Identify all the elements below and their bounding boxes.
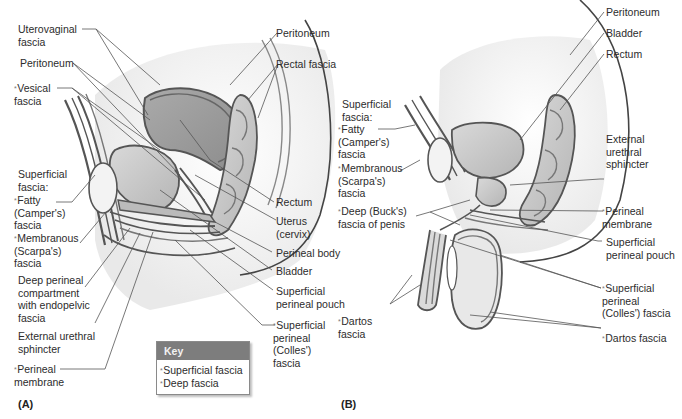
key-title: Key	[157, 342, 249, 360]
label-peritoneum-a-right: Peritoneum	[276, 27, 330, 40]
label-rectum-a: Rectum	[276, 196, 312, 209]
label-uterus-cervix: Uterus (cervix)	[276, 215, 310, 240]
male-pelvis-drawing	[405, 0, 629, 329]
label-peritoneum-a-left: Peritoneum	[20, 57, 74, 70]
label-dartos-fascia-b-right: *Dartos fascia	[602, 332, 667, 345]
label-perineal-membrane-b: *Perineal membrane	[602, 205, 652, 230]
key-item-superficial-fascia: *Superficial fascia	[157, 364, 249, 377]
label-fatty-campers-fascia-b: *Fatty (Camper's) fascia	[338, 123, 390, 161]
label-superficial-perineal-colles-fascia-a: *Superficial perineal (Colles') fascia	[273, 319, 325, 369]
label-deep-perineal-compartment: Deep perineal compartment with endopelvi…	[18, 274, 90, 324]
label-vesical-fascia: *Vesical fascia	[14, 82, 51, 107]
label-superficial-fascia-b: Superficial fascia:	[342, 98, 391, 123]
label-dartos-fascia-b-left: *Dartos fascia	[338, 315, 372, 340]
label-superficial-perineal-colles-fascia-b: *Superficial perineal (Colles') fascia	[602, 282, 671, 320]
label-rectum-b: Rectum	[606, 48, 642, 61]
label-superficial-perineal-pouch-a: Superficial perineal pouch	[276, 285, 345, 310]
label-superficial-perineal-pouch-b: Superficial perineal pouch	[606, 236, 675, 261]
label-external-urethral-sphincter-b: External urethral sphincter	[606, 133, 649, 171]
label-superficial-fascia-a: Superficial fascia:	[18, 168, 67, 193]
label-rectal-fascia: Rectal fascia	[276, 58, 336, 71]
key-item-deep-fascia: *Deep fascia	[157, 377, 249, 390]
label-uterovaginal-fascia: Uterovaginal fascia	[18, 23, 77, 48]
key-legend: Key *Superficial fascia *Deep fascia	[156, 341, 250, 395]
label-bladder-b: Bladder	[606, 27, 642, 40]
label-peritoneum-b: Peritoneum	[606, 6, 660, 19]
label-perineal-membrane-a: *Perineal membrane	[14, 363, 64, 388]
label-bladder-a: Bladder	[276, 265, 312, 278]
label-membranous-scarpas-fascia-a: *Membranous (Scarpa's) fascia	[14, 232, 79, 270]
label-fatty-campers-fascia-a: *Fatty (Camper's) fascia	[14, 194, 66, 232]
panel-label-a: (A)	[18, 398, 33, 410]
label-perineal-body: Perineal body	[276, 247, 340, 260]
label-external-urethral-sphincter-a: External urethral sphincter	[18, 330, 95, 355]
label-deep-bucks-fascia-of-penis: *Deep (Buck's) fascia of penis	[338, 205, 407, 230]
label-membranous-scarpas-fascia-b: *Membranous (Scarpa's) fascia	[338, 162, 403, 200]
panel-label-b: (B)	[341, 398, 356, 410]
